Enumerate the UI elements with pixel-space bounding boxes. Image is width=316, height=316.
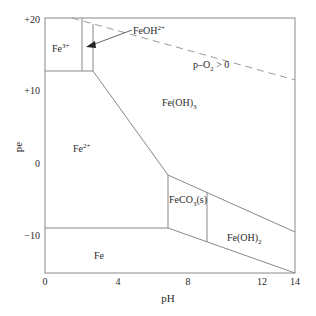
o2-boundary-line: [72, 18, 295, 80]
y-tick-label: +20: [24, 14, 40, 25]
region-label-feco3: FeCO3(s): [169, 194, 207, 208]
region-label-fe: Fe: [94, 250, 105, 261]
y-axis-label: pe: [12, 142, 24, 153]
y-tick-label: 0: [35, 158, 40, 169]
feoh2-arrow-line: [92, 30, 132, 45]
region-label-feoh3: Fe(OH)3: [162, 97, 197, 111]
x-tick-label: 8: [186, 276, 191, 287]
x-tick-label: 0: [43, 276, 48, 287]
o2-line-label: p–O2 > 0: [193, 59, 229, 73]
y-tick-label: +10: [24, 85, 40, 96]
region-label-feoh2s: Fe(OH)2: [227, 232, 262, 246]
region-label-fe3: Fe3+: [52, 42, 70, 54]
x-axis-label: pH: [161, 292, 175, 304]
arrow-head-icon: [86, 41, 96, 48]
region-label-fe2: Fe2+: [73, 142, 91, 154]
feoh3-fe2-boundary: [93, 71, 168, 175]
pe-ph-diagram: +20 +10 0 −10 0 4 8 12 14 pH pe Fe3+ FeO…: [0, 0, 316, 316]
region-label-feoh2: FeOH2+: [133, 24, 165, 36]
x-tick-label: 12: [257, 276, 267, 287]
x-tick-label: 4: [116, 276, 121, 287]
x-tick-label: 14: [290, 276, 300, 287]
y-tick-label: −10: [24, 230, 40, 241]
